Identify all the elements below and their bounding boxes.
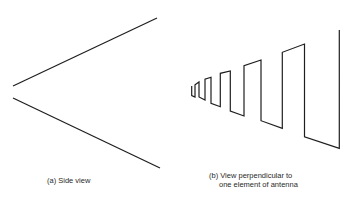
perpendicular-view-panel	[192, 30, 340, 148]
side-view-lower-element-line	[13, 98, 160, 168]
caption-perpendicular-view: (b) View perpendicular to one element of…	[209, 171, 298, 189]
antenna-figure: (a) Side view (b) View perpendicular to …	[0, 0, 348, 204]
log-periodic-zigzag-element	[192, 30, 340, 148]
caption-perpendicular-line1: (b) View perpendicular to	[209, 171, 292, 180]
caption-perpendicular-line2: one element of antenna	[209, 180, 298, 189]
side-view-upper-element-line	[13, 18, 157, 86]
side-view-panel	[13, 18, 160, 168]
caption-side-view: (a) Side view	[47, 176, 90, 185]
